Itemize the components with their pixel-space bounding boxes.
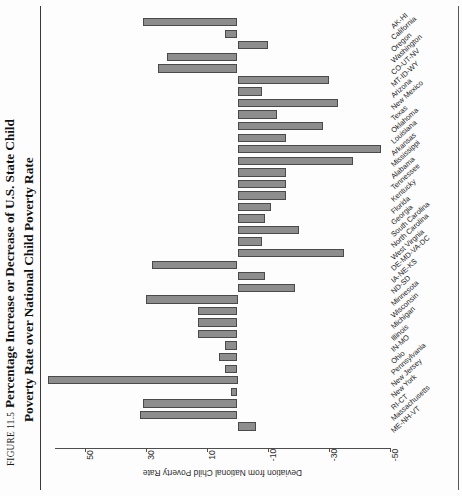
bar [238,237,262,245]
bar [238,145,381,153]
bar-row [55,340,390,352]
bar-row [55,387,390,399]
bar-row [55,190,390,202]
bar-row [55,364,390,376]
axis-tick-label: 10 [207,440,217,470]
bar-row [55,317,390,329]
bar-row [55,421,390,433]
bar-row [55,271,390,283]
bar [167,53,237,61]
bar [143,399,238,407]
bar-row [55,98,390,110]
bar [238,284,296,292]
bar [238,203,272,211]
bar-row [55,156,390,168]
axis-tick-label: 30 [146,440,156,470]
bar [198,307,238,315]
bar-row [55,248,390,260]
bar [238,99,339,107]
bar-row [55,86,390,98]
bar-row [55,121,390,133]
bar-row [55,260,390,272]
axis-tick-label: -10 [268,440,278,470]
bar [238,168,287,176]
bar-row [55,179,390,191]
bar [140,411,238,419]
axis-tick-label: -30 [329,440,339,470]
bar-row [55,375,390,387]
figure-title-line-1: Percentage Increase or Decrease of U.S. … [2,119,17,408]
bar-row [55,352,390,364]
bar-row [55,283,390,295]
bar-row [55,398,390,410]
value-axis-line [55,448,390,449]
bar [238,214,265,222]
bar [238,249,345,257]
plot-area [55,12,390,448]
bar [238,191,287,199]
bar [238,110,278,118]
bar [238,41,269,49]
bar [231,388,237,396]
bar [158,64,237,72]
bar [48,376,237,384]
bar-row [55,213,390,225]
bar [238,157,354,165]
bar [238,134,287,142]
bar [238,122,323,130]
bar-row [55,202,390,214]
figure-number: FIGURE 11.5 [6,412,16,466]
bar-row [55,29,390,41]
bar-row [55,109,390,121]
bar [219,353,237,361]
bar [225,30,237,38]
bar-row [55,306,390,318]
category-axis-labels: AK-HICaliforniaOregonWashingtonCO-UT-NVM… [388,0,462,470]
bar-row [55,63,390,75]
figure-title-line-2: Poverty Rate over National Child Poverty… [21,158,36,423]
bar [225,365,237,373]
bar [198,318,238,326]
bar [238,87,262,95]
bar [238,226,299,234]
bar [238,422,256,430]
bar-row [55,167,390,179]
bar [238,272,265,280]
bar [225,341,237,349]
bar [238,180,287,188]
bar-row [55,410,390,422]
bar-row [55,294,390,306]
bar-row [55,52,390,64]
bar [198,330,238,338]
value-axis-title: Deviation from National Child Poverty Ra… [55,468,390,478]
bar-row [55,75,390,87]
bar-row [55,329,390,341]
bar-row [55,236,390,248]
bar-row [55,144,390,156]
axis-tick-label: 50 [85,440,95,470]
bar-chart: 503010-10-30-50 [55,12,390,452]
bar-row [55,133,390,145]
bar [146,295,238,303]
figure-page: FIGURE 11.5 Percentage Increase or Decre… [0,0,462,496]
figure-caption: FIGURE 11.5 Percentage Increase or Decre… [0,0,42,470]
bar-row [55,17,390,29]
bar-row [55,40,390,52]
bar [238,76,330,84]
bar-row [55,225,390,237]
bar [152,261,237,269]
bar [143,18,238,26]
